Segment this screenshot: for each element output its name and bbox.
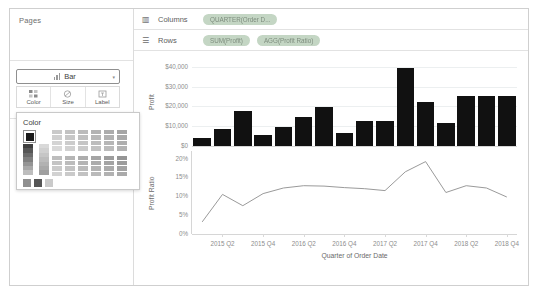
columns-shelf[interactable]: ▥ Columns QUARTER(Order D... [134, 9, 528, 30]
y-axis-title: Profit Ratio [148, 176, 155, 210]
color-swatch[interactable] [91, 156, 101, 160]
viz-canvas[interactable]: $0$10,000$20,000$30,000$40,0000%5%10%15%… [134, 51, 528, 285]
color-swatch[interactable] [104, 141, 114, 145]
pill-rows-1[interactable]: AGG(Profit Ratio) [257, 35, 320, 46]
color-swatch[interactable] [104, 156, 114, 160]
color-swatch-column[interactable] [117, 130, 127, 176]
chevron-down-icon[interactable]: ▾ [112, 74, 115, 80]
swatch-gap [91, 152, 101, 155]
color-swatch[interactable] [117, 146, 127, 150]
color-swatch[interactable] [78, 161, 88, 165]
color-swatch-column[interactable] [104, 130, 114, 176]
color-ramp-primary[interactable] [23, 144, 36, 175]
size-icon [63, 90, 72, 98]
color-swatch[interactable] [91, 135, 101, 139]
x-axis-title: Quarter of Order Date [322, 252, 388, 259]
color-swatch[interactable] [65, 172, 75, 176]
color-swatch[interactable] [78, 141, 88, 145]
x-axis-tick-label: 2018 Q4 [495, 240, 519, 247]
worksheet-area: ▥ Columns QUARTER(Order D... ☰ Rows SUM(… [134, 9, 528, 285]
color-swatch[interactable] [45, 179, 53, 187]
pill-columns-0[interactable]: QUARTER(Order D... [203, 14, 277, 25]
color-palette-icon [29, 90, 38, 98]
color-swatch[interactable] [117, 166, 127, 170]
color-swatch-column[interactable] [52, 130, 62, 176]
color-swatch[interactable] [91, 146, 101, 150]
color-swatch[interactable] [65, 135, 75, 139]
color-swatch[interactable] [65, 161, 75, 165]
color-footer-swatches[interactable] [23, 179, 133, 187]
color-swatch[interactable] [23, 179, 31, 187]
y-axis-title: Profit [148, 94, 155, 110]
x-axis-tick [304, 234, 305, 237]
color-swatch[interactable] [91, 161, 101, 165]
color-swatch[interactable] [104, 172, 114, 176]
x-axis-tick-label: 2016 Q4 [332, 240, 356, 247]
selected-color-swatch[interactable] [23, 130, 36, 143]
color-popover-title: Color [23, 118, 133, 127]
color-swatch[interactable] [52, 166, 62, 170]
color-swatch[interactable] [52, 130, 62, 134]
color-swatch[interactable] [104, 166, 114, 170]
color-swatch[interactable] [104, 135, 114, 139]
color-swatch-column[interactable] [78, 130, 88, 176]
color-swatch[interactable] [52, 146, 62, 150]
color-swatch[interactable] [104, 161, 114, 165]
swatch-gap [104, 152, 114, 155]
x-axis-tick-label: 2015 Q2 [210, 240, 234, 247]
color-swatch[interactable] [91, 172, 101, 176]
color-swatch[interactable] [104, 146, 114, 150]
color-swatch[interactable] [117, 135, 127, 139]
rows-icon: ☰ [142, 36, 151, 45]
color-swatch[interactable] [52, 141, 62, 145]
color-swatch[interactable] [78, 130, 88, 134]
color-swatch[interactable] [78, 156, 88, 160]
color-swatch[interactable] [65, 146, 75, 150]
marks-label-button[interactable]: Label [86, 87, 119, 107]
color-swatch[interactable] [52, 135, 62, 139]
left-control-pane: Pages Filters Marks ⌄ ⌄ All ⌃ SUM(Profit… [10, 9, 134, 285]
color-swatch[interactable] [117, 141, 127, 145]
color-swatch[interactable] [91, 130, 101, 134]
color-swatch[interactable] [104, 130, 114, 134]
color-ramp-secondary[interactable] [39, 144, 49, 175]
swatch-gap [52, 152, 62, 155]
color-swatch[interactable] [39, 170, 49, 174]
color-swatch[interactable] [78, 172, 88, 176]
color-swatch[interactable] [78, 135, 88, 139]
color-swatch-column[interactable] [91, 130, 101, 176]
color-swatch[interactable] [65, 156, 75, 160]
x-axis-tick [507, 234, 508, 237]
color-swatch[interactable] [117, 172, 127, 176]
color-swatch[interactable] [65, 141, 75, 145]
color-swatch[interactable] [91, 141, 101, 145]
x-axis-tick [426, 234, 427, 237]
color-swatch[interactable] [52, 156, 62, 160]
color-swatch[interactable] [52, 172, 62, 176]
color-swatch[interactable] [117, 130, 127, 134]
rows-label: Rows [158, 36, 196, 45]
swatch-gap [117, 152, 127, 155]
color-swatch[interactable] [78, 166, 88, 170]
rows-shelf[interactable]: ☰ Rows SUM(Profit) AGG(Profit Ratio) [134, 30, 528, 51]
color-swatch[interactable] [117, 156, 127, 160]
color-swatch[interactable] [23, 170, 33, 174]
color-palette-columns[interactable] [52, 130, 127, 176]
pages-shelf[interactable]: Pages [10, 9, 133, 61]
x-axis-tick [263, 234, 264, 237]
label-icon [98, 90, 107, 98]
marks-color-button[interactable]: Color [17, 87, 51, 107]
color-swatch[interactable] [65, 130, 75, 134]
mark-type-dropdown[interactable]: Bar ▾ [16, 69, 120, 84]
x-axis-tick-label: 2018 Q2 [454, 240, 478, 247]
color-swatch[interactable] [65, 166, 75, 170]
color-swatch[interactable] [34, 179, 42, 187]
marks-size-button[interactable]: Size [51, 87, 85, 107]
color-swatch[interactable] [78, 146, 88, 150]
color-swatch[interactable] [52, 161, 62, 165]
color-swatch-column[interactable] [65, 130, 75, 176]
profit-ratio-line[interactable] [134, 51, 528, 285]
color-swatch[interactable] [91, 166, 101, 170]
color-swatch[interactable] [117, 161, 127, 165]
pill-rows-0[interactable]: SUM(Profit) [203, 35, 250, 46]
